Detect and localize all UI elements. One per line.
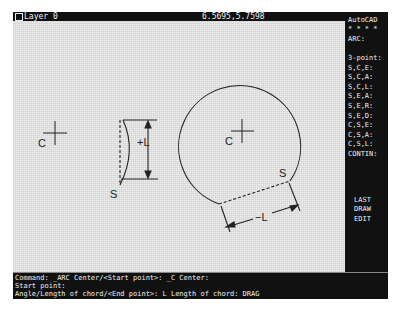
coordinate-display[interactable]: 6.5695,5.7598 [202, 12, 265, 21]
menu-item-ser[interactable]: S,E,R: [348, 102, 373, 112]
center-marker-circle [231, 119, 254, 143]
label-negative-chord: −L [255, 211, 268, 223]
label-start-circle: S [279, 167, 286, 179]
menu-item-arc[interactable]: ARC: [348, 35, 365, 45]
arc-positive-chord [120, 120, 158, 185]
command-line-3[interactable]: Angle/Length of chord/<End point>: L Len… [15, 290, 259, 298]
menu-item-draw[interactable]: DRAW [354, 205, 371, 215]
layer-color-swatch[interactable] [15, 13, 23, 21]
center-marker-left [43, 121, 67, 145]
menu-item-sca[interactable]: S,C,A: [348, 73, 373, 83]
autocad-screen: Layer 0 6.5695,5.7598 C +L S [13, 12, 388, 298]
menu-item-csl[interactable]: C,S,L: [348, 140, 373, 150]
arc-negative-chord [179, 86, 301, 232]
menu-item-sea[interactable]: S,E,A: [348, 92, 373, 102]
command-prompt-area[interactable]: Command: _ARC Center/<Start point>: _C C… [13, 272, 388, 299]
menu-item-osnap[interactable]: * * * * [348, 25, 378, 35]
menu-item-contin[interactable]: CONTIN: [348, 150, 378, 160]
status-bar: Layer 0 6.5695,5.7598 [13, 12, 345, 21]
menu-item-3-point[interactable]: 3-point: [348, 54, 382, 64]
label-start-left: S [110, 188, 117, 200]
menu-item-edit[interactable]: EDIT [354, 215, 371, 225]
drawing-area[interactable]: C +L S [13, 21, 345, 272]
screen-menu: AutoCAD * * * * ARC: 3-point: S,C,E: S,C… [345, 12, 388, 272]
drawing-canvas: C +L S [13, 21, 345, 272]
label-center-left: C [38, 137, 46, 149]
menu-item-cse[interactable]: C,S,E: [348, 121, 373, 131]
label-positive-chord: +L [137, 136, 150, 148]
label-center-circle: C [225, 135, 233, 147]
current-layer[interactable]: Layer 0 [24, 12, 58, 21]
